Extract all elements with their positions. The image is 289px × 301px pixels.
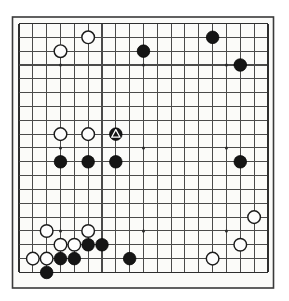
star-point (142, 229, 145, 232)
black-stone (40, 266, 53, 279)
black-stone (54, 252, 67, 265)
white-stone (40, 225, 53, 238)
star-point (225, 229, 228, 232)
white-stone (234, 238, 247, 251)
black-stone (96, 238, 109, 251)
black-stone (68, 252, 81, 265)
white-stone (248, 211, 261, 224)
white-stone (68, 238, 81, 251)
white-stone (40, 252, 53, 265)
black-stone (206, 31, 219, 44)
white-stone (82, 225, 95, 238)
star-point (142, 146, 145, 149)
star-point (142, 63, 145, 66)
go-board-diagram (0, 0, 289, 301)
white-stone (54, 128, 67, 141)
star-point (225, 146, 228, 149)
white-stone (206, 252, 219, 265)
white-stone (27, 252, 40, 265)
star-point (59, 229, 62, 232)
star-point (59, 146, 62, 149)
star-point (59, 63, 62, 66)
black-stone (123, 252, 136, 265)
black-stone (234, 59, 247, 72)
black-stone (82, 238, 95, 251)
black-stone (234, 156, 247, 169)
black-stone (54, 156, 67, 169)
white-stone (54, 238, 67, 251)
go-board-svg (0, 0, 289, 301)
white-stone (82, 128, 95, 141)
star-point (225, 63, 228, 66)
white-stone (82, 31, 95, 44)
black-stone (137, 45, 150, 58)
black-stone (82, 156, 95, 169)
white-stone (54, 45, 67, 58)
black-stone (110, 156, 123, 169)
